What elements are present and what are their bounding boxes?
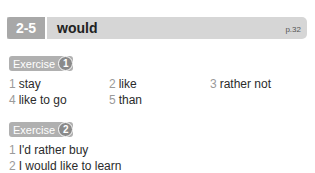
answer-item: 1stay: [9, 77, 41, 91]
exercise-number: 1: [58, 56, 73, 71]
answer-text: like: [119, 77, 137, 91]
answer-item: 4like to go: [9, 93, 67, 107]
answer-item: 3rather not: [210, 77, 271, 91]
exercise-number: 2: [58, 122, 73, 137]
unit-title: would: [57, 20, 285, 36]
answer-item: 5than: [109, 93, 142, 107]
answer-text: stay: [19, 77, 41, 91]
answer-number: 4: [9, 93, 16, 107]
answer-number: 5: [109, 93, 116, 107]
answer-text: I would like to learn: [19, 159, 122, 173]
answer-item: 2I would like to learn: [9, 159, 121, 173]
exercise-label: Exercise: [13, 58, 55, 70]
exercise-2-badge: Exercise 2: [9, 122, 73, 137]
answer-text: rather not: [220, 77, 271, 91]
answer-number: 2: [109, 77, 116, 91]
unit-number: 2-5: [7, 17, 47, 39]
answer-item: 1I'd rather buy: [9, 143, 88, 157]
answer-text: than: [119, 93, 142, 107]
answer-number: 2: [9, 159, 16, 173]
answer-number: 3: [210, 77, 217, 91]
answer-text: I'd rather buy: [19, 143, 89, 157]
answer-text: like to go: [19, 93, 67, 107]
answer-number: 1: [9, 143, 16, 157]
unit-header: 2-5 would p.32: [7, 17, 307, 39]
answer-number: 1: [9, 77, 16, 91]
exercise-1-badge: Exercise 1: [9, 56, 73, 71]
exercise-label: Exercise: [13, 124, 55, 136]
answer-item: 2like: [109, 77, 137, 91]
page-reference: p.32: [285, 25, 301, 34]
